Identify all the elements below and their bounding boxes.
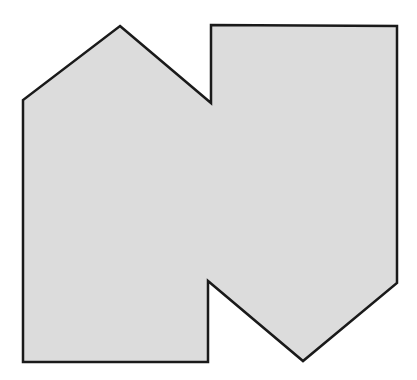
- polygon-figure-svg: [0, 0, 417, 380]
- figure-canvas: [0, 0, 417, 380]
